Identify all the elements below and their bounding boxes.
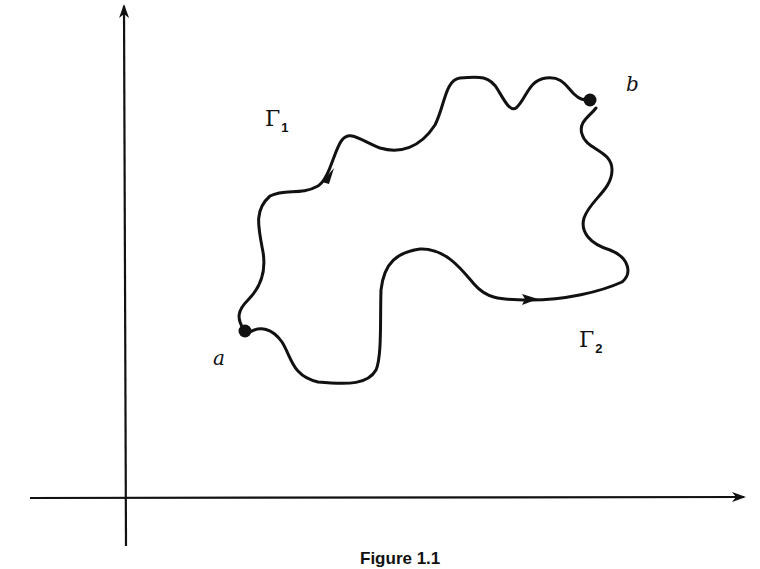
y-axis [124, 6, 126, 546]
point-a-label: a [213, 346, 225, 370]
point-b-dot [584, 94, 597, 107]
point-a-text: a [213, 346, 225, 370]
gamma1-subscript: 1 [281, 120, 288, 135]
path-gamma1 [239, 77, 590, 330]
path-gamma2 [250, 108, 628, 383]
gamma1-symbol: Γ [265, 106, 280, 131]
point-b-text: b [626, 72, 639, 96]
gamma2-label: Γ2 [579, 327, 603, 356]
point-a-dot [239, 325, 252, 338]
point-b-label: b [626, 72, 639, 96]
x-axis [30, 497, 744, 498]
gamma2-subscript: 2 [595, 341, 602, 356]
figure-caption: Figure 1.1 [360, 549, 440, 569]
gamma2-symbol: Γ [579, 327, 594, 352]
gamma1-label: Γ1 [265, 106, 289, 135]
